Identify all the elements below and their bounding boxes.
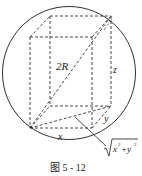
figure-caption: 图 5 - 12: [50, 162, 86, 173]
sqrt-plus-y: +y: [121, 144, 131, 154]
label-y: y: [103, 113, 109, 124]
base-diagonal: [30, 106, 111, 128]
sphere-box-diagram: 2R z x y x 2 +y 2 图 5 - 12: [0, 0, 142, 176]
label-2r: 2R: [56, 60, 69, 72]
label-x: x: [57, 131, 63, 142]
space-diagonal: [30, 16, 111, 128]
label-z: z: [112, 64, 117, 75]
label-sqrt-x2-y2: x 2 +y 2: [104, 139, 138, 156]
sqrt-x: x: [112, 144, 117, 154]
sqrt-y-sup: 2: [134, 142, 137, 147]
